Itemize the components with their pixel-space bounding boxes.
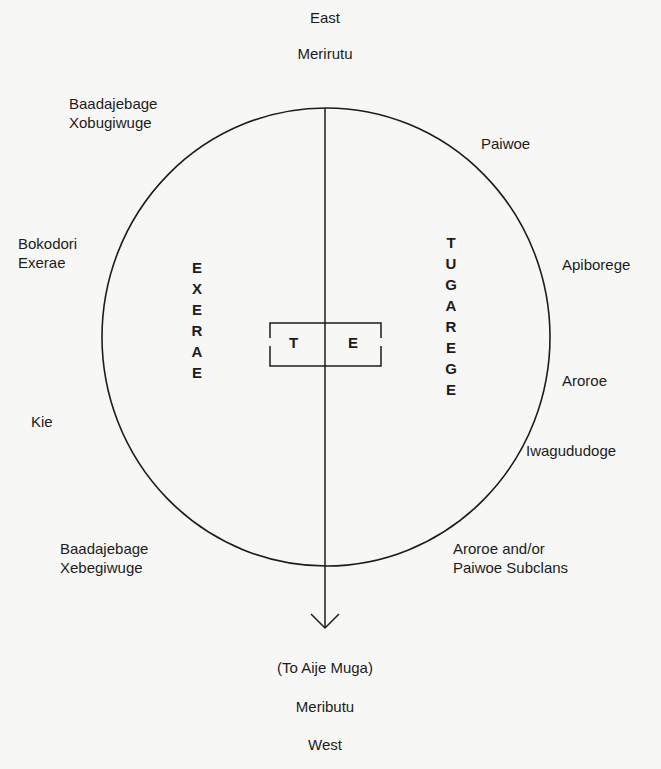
moiety-exerae: EXERAE <box>189 257 205 383</box>
clan-baadajebage-xobugiwuge: Baadajebage Xobugiwuge <box>69 94 157 132</box>
direction-east: East <box>310 8 340 27</box>
clan-line-2: Xebegiwuge <box>60 558 148 577</box>
clan-line-1: Aroroe and/or <box>453 539 568 558</box>
moiety-tugarege: TUGAREGE <box>443 232 459 400</box>
clan-line-2: Exerae <box>18 253 77 272</box>
clan-aroroe-paiwoe-subclans: Aroroe and/or Paiwoe Subclans <box>453 539 568 577</box>
clan-aroroe: Aroroe <box>562 371 607 390</box>
label-meributu: Meributu <box>296 697 354 716</box>
label-merirutu: Merirutu <box>297 44 352 63</box>
clan-line-2: Paiwoe Subclans <box>453 558 568 577</box>
clan-line-1: Bokodori <box>18 234 77 253</box>
clan-paiwoe: Paiwoe <box>481 134 530 153</box>
mens-house-tugarege-side: T <box>289 334 298 351</box>
clan-iwagududoge: Iwagududoge <box>526 441 616 460</box>
clan-kie: Kie <box>31 412 53 431</box>
clan-line-1: Baadajebage <box>69 94 157 113</box>
village-circle <box>102 108 550 566</box>
clan-baadajebage-xebegiwuge: Baadajebage Xebegiwuge <box>60 539 148 577</box>
clan-bokodori-exerae: Bokodori Exerae <box>18 234 77 272</box>
mens-house-exerae-side: E <box>348 334 358 351</box>
label-to-aije-muga: (To Aije Muga) <box>277 658 373 677</box>
clan-line-1: Baadajebage <box>60 539 148 558</box>
direction-west: West <box>308 735 342 754</box>
clan-line-2: Xobugiwuge <box>69 113 157 132</box>
clan-apiborege: Apiborege <box>562 255 630 274</box>
